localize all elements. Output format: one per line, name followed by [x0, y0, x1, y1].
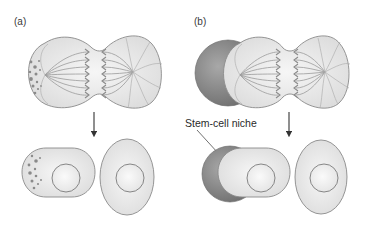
dividing-cell-a [28, 36, 161, 108]
panel-a-label: (a) [14, 16, 26, 27]
nucleus [116, 164, 144, 192]
daughter-cell-b-right [295, 140, 347, 214]
panel-a: (a) [14, 16, 162, 215]
niche-leader-line [197, 130, 218, 153]
daughter-cell-b-left [218, 148, 290, 197]
stem-cell-niche-label: Stem-cell niche [185, 117, 257, 129]
daughter-cell-a-right [100, 139, 154, 215]
nucleus [247, 164, 275, 192]
daughter-cell-a-left [22, 148, 95, 197]
panel-b: (b) [185, 16, 350, 214]
panel-b-label: (b) [194, 16, 206, 27]
nucleus [52, 164, 80, 192]
asymmetric-division-diagram: (a) [0, 0, 375, 233]
nucleus [310, 164, 338, 192]
